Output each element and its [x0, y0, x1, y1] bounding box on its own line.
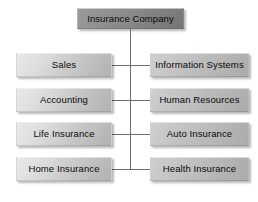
node-label: Sales [52, 60, 76, 70]
node-home-insurance[interactable]: Home Insurance [16, 157, 112, 181]
node-information-systems[interactable]: Information Systems [150, 53, 249, 77]
connector-trunk-vertical [130, 29, 131, 169]
connector-row-1-right [130, 65, 151, 66]
connector-row-4-left [112, 169, 131, 170]
node-human-resources[interactable]: Human Resources [150, 88, 249, 112]
node-label: Home Insurance [28, 164, 99, 174]
node-auto-insurance[interactable]: Auto Insurance [150, 122, 249, 146]
node-label: Health Insurance [163, 164, 236, 174]
node-label: Information Systems [155, 60, 244, 70]
node-label: Life Insurance [33, 129, 94, 139]
node-life-insurance[interactable]: Life Insurance [16, 122, 112, 146]
connector-row-3-right [130, 134, 151, 135]
connector-row-2-left [112, 100, 131, 101]
node-label: Auto Insurance [167, 129, 232, 139]
connector-row-1-left [112, 65, 131, 66]
node-label: Human Resources [159, 95, 239, 105]
node-label: Accounting [40, 95, 88, 105]
connector-row-4-right [130, 169, 151, 170]
node-insurance-company[interactable]: Insurance Company [77, 8, 184, 29]
node-health-insurance[interactable]: Health Insurance [150, 157, 249, 181]
node-label: Insurance Company [87, 14, 174, 24]
node-sales[interactable]: Sales [16, 53, 112, 77]
connector-row-3-left [112, 134, 131, 135]
node-accounting[interactable]: Accounting [16, 88, 112, 112]
connector-row-2-right [130, 100, 151, 101]
org-chart-diagram: Insurance Company Sales Information Syst… [0, 0, 258, 202]
